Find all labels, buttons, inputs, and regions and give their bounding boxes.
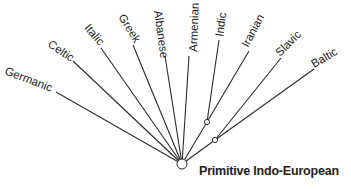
branch-label-albanese: Albanese [152, 10, 171, 59]
branch-labels: GermanicCelticItalicGreekAlbaneseArmenia… [3, 2, 339, 93]
branch-line-baltic [215, 69, 314, 140]
branch-line-germanic [56, 92, 182, 164]
branch-label-germanic: Germanic [3, 65, 54, 94]
branch-line-armenian [182, 56, 189, 164]
branch-label-slavic: Slavic [273, 28, 303, 58]
branch-line-celtic [73, 61, 182, 164]
root-label: Primitive Indo-European [199, 164, 339, 178]
indo-iranian-node [204, 119, 209, 124]
branch-line-albanese [165, 56, 182, 164]
branch-label-baltic: Baltic [309, 45, 340, 70]
branch-line-indic [207, 40, 219, 122]
branch-label-armenian: Armenian [187, 2, 201, 52]
branch-label-celtic: Celtic [46, 38, 77, 64]
root-node [177, 159, 187, 169]
balto-slavic-node [212, 137, 217, 142]
balto-slavic-node-stem [182, 140, 215, 164]
branch-line-iranian [207, 51, 249, 122]
branch-label-italic: Italic [82, 22, 107, 48]
branch-label-greek: Greek [116, 12, 143, 45]
branch-line-slavic [215, 58, 281, 140]
language-tree-diagram: GermanicCelticItalicGreekAlbaneseArmenia… [0, 0, 351, 189]
indo-iranian-node-stem [182, 122, 207, 164]
branch-label-iranian: Iranian [239, 12, 266, 49]
branch-lines [56, 40, 314, 164]
branch-label-indic: Indic [213, 11, 228, 37]
